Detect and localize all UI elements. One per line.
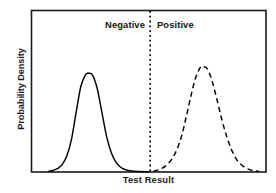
positive-distribution-curve (153, 66, 259, 171)
negative-distribution-curve (48, 73, 148, 172)
diagnostic-test-distribution-chart: Probability Density Test Result Negative… (0, 0, 276, 193)
plot-frame (32, 11, 267, 173)
plot-area (0, 0, 276, 193)
